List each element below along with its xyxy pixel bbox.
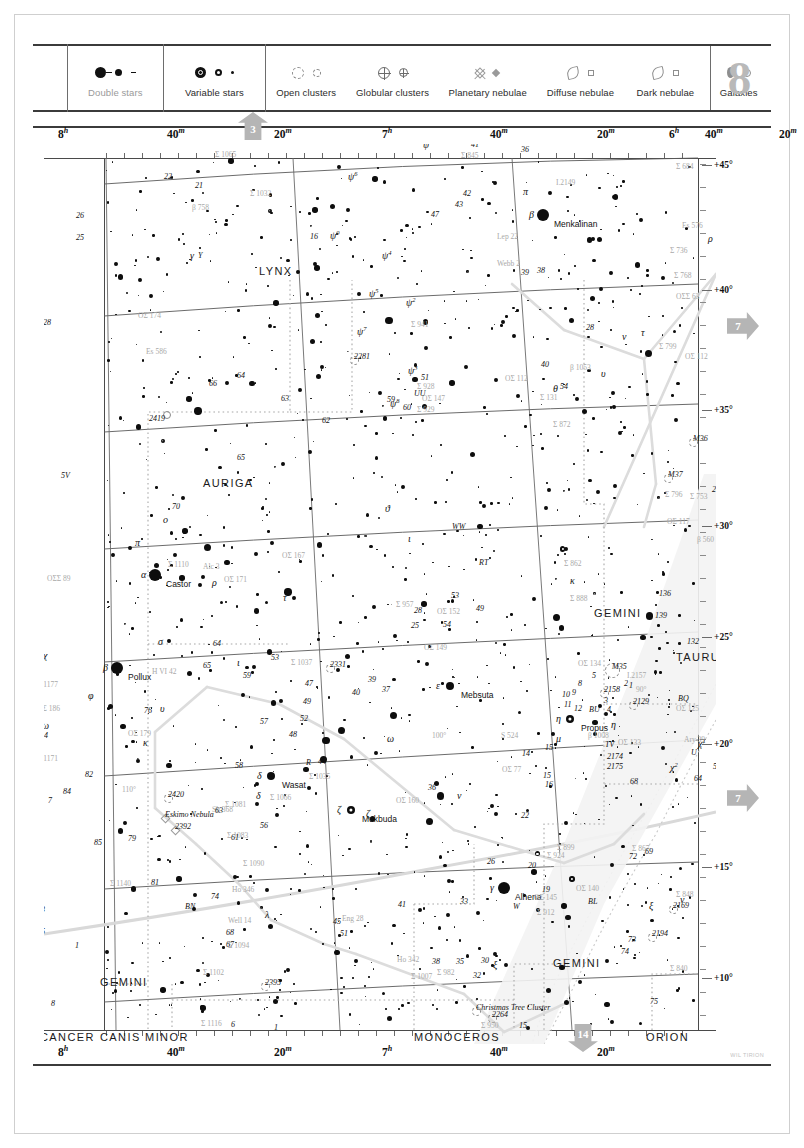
star-marker — [131, 627, 134, 630]
star-marker — [639, 293, 641, 295]
dso-label-ngc2281: 2281 — [354, 352, 370, 361]
flamsteed-label-66: 1 — [75, 941, 79, 950]
star-marker — [668, 699, 670, 701]
flamsteed-label-21: 39 — [521, 268, 529, 277]
star-marker — [150, 514, 153, 517]
star-marker — [412, 188, 416, 192]
star-marker — [447, 879, 451, 883]
double-star-label-35: Σ 888 — [570, 594, 588, 603]
double-star-label-0: Σ 1065 — [215, 150, 236, 159]
star-marker — [613, 484, 617, 488]
flamsteed-label-104: 3 — [604, 696, 608, 705]
star-marker — [231, 546, 234, 549]
flamsteed-label-13: 51 — [421, 373, 429, 382]
star-marker — [655, 604, 657, 606]
star-marker — [515, 813, 517, 815]
star-marker — [404, 389, 406, 391]
star-marker — [245, 666, 249, 670]
ra-label-top-4: 40m — [490, 126, 508, 140]
star-marker — [278, 571, 280, 573]
greek-letter-castor: α — [141, 569, 146, 580]
double-star-label-59: Σ 1140 — [110, 879, 131, 888]
dec-label-7: +10° — [714, 973, 733, 983]
star-marker — [175, 373, 177, 375]
greek-label-27: κ — [143, 737, 148, 748]
star-marker — [645, 901, 648, 904]
star-marker — [357, 292, 361, 296]
diffuse-nebula-large-icon — [566, 65, 580, 79]
star-marker — [610, 1020, 614, 1024]
star-marker — [273, 326, 276, 329]
star-marker — [536, 881, 538, 883]
star-marker — [255, 802, 259, 806]
star-marker — [254, 608, 259, 613]
star-marker — [255, 267, 257, 269]
star-marker — [142, 359, 145, 362]
variable-star-marker — [161, 439, 165, 443]
dec-minor-tick — [700, 992, 706, 993]
star-marker — [612, 697, 614, 699]
dark-nebula-small-icon — [673, 70, 679, 76]
star-marker — [491, 327, 494, 330]
flamsteed-label-14: 5V — [61, 471, 70, 480]
star-marker — [320, 341, 322, 343]
star-marker — [634, 883, 636, 885]
star-marker — [412, 232, 414, 234]
star-marker — [150, 838, 153, 841]
dec-minor-tick — [700, 302, 706, 303]
star-marker — [360, 410, 363, 413]
greek-label-5: ψ5 — [369, 287, 378, 299]
dec-label-2: +35° — [714, 405, 733, 415]
star-marker — [354, 959, 358, 963]
constellation-label-auriga-upper: AURIGA — [596, 144, 647, 146]
double-star-symbols — [95, 59, 136, 87]
star-marker — [269, 996, 271, 998]
flamsteed-label-1: 21 — [195, 181, 203, 190]
greek-label-22: κ — [570, 575, 575, 586]
flamsteed-label-26: 26 — [712, 485, 716, 494]
star-marker — [149, 611, 151, 613]
star-marker — [618, 229, 621, 232]
star-marker — [350, 930, 353, 933]
star-marker — [676, 989, 679, 992]
dso-label-ngc2331: 2331 — [330, 660, 346, 669]
star-marker — [271, 700, 276, 705]
star-marker — [611, 391, 615, 395]
variable-star-marker — [566, 715, 574, 723]
star-marker — [674, 418, 678, 422]
ra-label-top-0: 8h — [58, 126, 68, 140]
star-marker — [474, 826, 476, 828]
star-marker — [646, 612, 653, 619]
star-marker — [497, 806, 499, 808]
ra-label-bottom-3: 7h — [382, 1044, 392, 1058]
star-marker — [544, 506, 548, 510]
star-marker — [259, 638, 261, 640]
star-marker — [107, 707, 110, 710]
sky-map[interactable]: AURIGALYNXAURIGAGEMINITAURUSGEMINIGEMINI… — [44, 144, 716, 1044]
star-marker — [459, 732, 461, 734]
star-marker — [391, 942, 394, 945]
star-marker — [176, 626, 178, 628]
flamsteed-label-43: 57 — [260, 717, 268, 726]
dec-minor-tick — [700, 325, 706, 326]
flamsteed-label-4: 28 — [44, 318, 51, 327]
greek-label-33: ξ — [649, 900, 653, 911]
star-marker — [451, 880, 454, 883]
dec-minor-tick — [700, 900, 706, 901]
star-marker — [193, 893, 197, 897]
star-marker — [669, 888, 672, 891]
star-marker — [235, 726, 237, 728]
attribution-text: WIL TIRION — [730, 1052, 764, 1058]
dec-minor-tick — [700, 440, 706, 441]
star-marker — [275, 691, 277, 693]
dec-label-5: +20° — [714, 739, 733, 749]
star-marker — [149, 294, 153, 298]
star-marker — [561, 903, 566, 908]
planetary-nebula-large-icon — [475, 67, 486, 78]
star-marker — [169, 957, 171, 959]
star-marker — [317, 687, 319, 689]
star-marker — [609, 659, 611, 661]
star-marker — [490, 804, 494, 808]
star-marker — [199, 247, 201, 249]
star-marker — [608, 1018, 610, 1020]
